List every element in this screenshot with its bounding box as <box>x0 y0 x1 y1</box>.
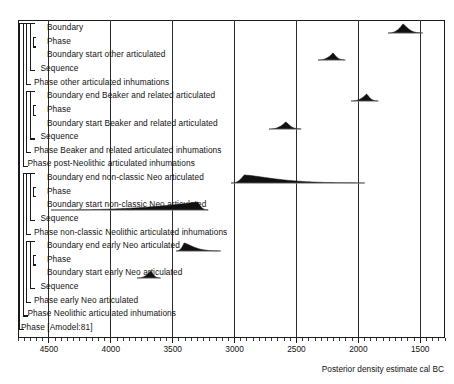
bracket-top-5 <box>30 23 35 24</box>
minor-tick-1550 <box>414 338 415 341</box>
phase-bracket-top-2 <box>33 187 36 188</box>
minor-tick-1850 <box>376 338 377 341</box>
bracket-bottom-5 <box>30 70 35 71</box>
minor-tick-2300 <box>321 338 322 341</box>
bracket-bottom-2 <box>26 152 31 153</box>
bracket-rail-1 <box>23 23 24 166</box>
minor-tick-3700 <box>147 338 148 341</box>
minor-tick-3350 <box>191 338 192 341</box>
minor-tick-3400 <box>185 338 186 341</box>
x-axis-caption: Posterior density estimate cal BC <box>322 364 444 374</box>
minor-tick-3150 <box>216 338 217 341</box>
row-label-0: Boundary <box>47 21 83 34</box>
minor-tick-4100 <box>98 338 99 341</box>
gridline-1500 <box>420 20 421 338</box>
minor-tick-3100 <box>222 338 223 341</box>
bracket-rail-6 <box>23 173 24 316</box>
bracket-rail-10 <box>30 241 31 288</box>
minor-tick-1400 <box>432 338 433 341</box>
minor-tick-2350 <box>315 338 316 341</box>
minor-tick-3950 <box>117 338 118 341</box>
distribution-curve <box>351 93 378 102</box>
row-label-17: Phase <box>47 253 71 266</box>
phase-bracket-rail-3 <box>33 255 34 265</box>
bracket-rail-0 <box>19 23 20 329</box>
minor-tick-3050 <box>228 338 229 341</box>
minor-tick-3300 <box>197 338 198 341</box>
phase-bracket-rail-0 <box>33 37 34 47</box>
minor-tick-1750 <box>389 338 390 341</box>
minor-tick-1300 <box>445 338 446 341</box>
minor-tick-3750 <box>141 338 142 341</box>
x-axis-tick-label-2500: 2500 <box>287 344 305 354</box>
minor-tick-4550 <box>42 338 43 341</box>
major-tick-2000 <box>358 338 359 343</box>
bracket-rail-5 <box>30 23 31 70</box>
bracket-top-10 <box>30 241 35 242</box>
bracket-bottom-4 <box>26 84 31 85</box>
minor-tick-2950 <box>240 338 241 341</box>
row-label-8: Sequence <box>41 130 79 143</box>
phase-bracket-rail-2 <box>33 187 34 197</box>
bracket-rail-9 <box>26 241 27 302</box>
phase-bracket-bottom-1 <box>33 115 36 116</box>
bracket-bottom-8 <box>30 220 35 221</box>
row-label-4: Phase other articulated inhumations <box>34 76 169 89</box>
phase-bracket-top-0 <box>33 37 36 38</box>
row-label-10: Phase post-Neolithic articulated inhumat… <box>28 157 195 170</box>
bracket-bottom-9 <box>26 302 31 303</box>
minor-tick-2900 <box>246 338 247 341</box>
minor-tick-1350 <box>438 338 439 341</box>
minor-tick-4050 <box>104 338 105 341</box>
minor-tick-4650 <box>30 338 31 341</box>
bracket-rail-8 <box>30 173 31 220</box>
minor-tick-4350 <box>67 338 68 341</box>
row-label-15: Phase non-classic Neolithic articulated … <box>34 226 227 239</box>
bracket-rail-3 <box>30 91 31 138</box>
minor-tick-4450 <box>55 338 56 341</box>
x-axis-tick-label-4500: 4500 <box>40 344 58 354</box>
minor-tick-3450 <box>178 338 179 341</box>
minor-tick-2200 <box>333 338 334 341</box>
distribution-curve <box>231 174 365 184</box>
row-label-1: Phase <box>47 35 71 48</box>
distribution-curve <box>269 121 301 130</box>
row-label-12: Phase <box>47 185 71 198</box>
major-tick-1500 <box>420 338 421 343</box>
oxcal-chart: BoundaryPhaseBoundary start other articu… <box>0 0 454 384</box>
row-label-11: Boundary end non-classic Neo articulated <box>47 171 204 184</box>
distribution-curve <box>388 23 423 34</box>
minor-tick-1700 <box>395 338 396 341</box>
minor-tick-3900 <box>123 338 124 341</box>
bracket-bottom-7 <box>26 234 31 235</box>
row-label-22: Phase [Amodel:81] <box>21 321 93 334</box>
major-tick-2500 <box>296 338 297 343</box>
major-tick-3500 <box>172 338 173 343</box>
row-label-20: Phase early Neo articulated <box>34 294 138 307</box>
x-axis-tick-label-1500: 1500 <box>411 344 429 354</box>
minor-tick-1900 <box>370 338 371 341</box>
bracket-bottom-3 <box>30 138 35 139</box>
minor-tick-4150 <box>92 338 93 341</box>
minor-tick-2850 <box>253 338 254 341</box>
minor-tick-4300 <box>73 338 74 341</box>
x-axis-tick-label-2000: 2000 <box>349 344 367 354</box>
bracket-rail-2 <box>26 91 27 152</box>
minor-tick-1950 <box>364 338 365 341</box>
phase-bracket-bottom-3 <box>33 264 36 265</box>
row-label-18: Boundary start early Neo articulated <box>47 266 182 279</box>
minor-tick-1600 <box>407 338 408 341</box>
minor-tick-3650 <box>154 338 155 341</box>
row-label-7: Boundary start Beaker and related articu… <box>47 117 218 130</box>
row-label-2: Boundary start other articulated <box>47 48 165 61</box>
major-tick-3000 <box>234 338 235 343</box>
row-label-19: Sequence <box>41 280 79 293</box>
phase-bracket-rail-1 <box>33 105 34 115</box>
minor-tick-2600 <box>284 338 285 341</box>
major-tick-4000 <box>110 338 111 343</box>
row-label-14: Sequence <box>41 212 79 225</box>
minor-tick-4600 <box>36 338 37 341</box>
row-label-3: Sequence <box>41 62 79 75</box>
minor-tick-3550 <box>166 338 167 341</box>
x-axis-tick-label-4000: 4000 <box>102 344 120 354</box>
